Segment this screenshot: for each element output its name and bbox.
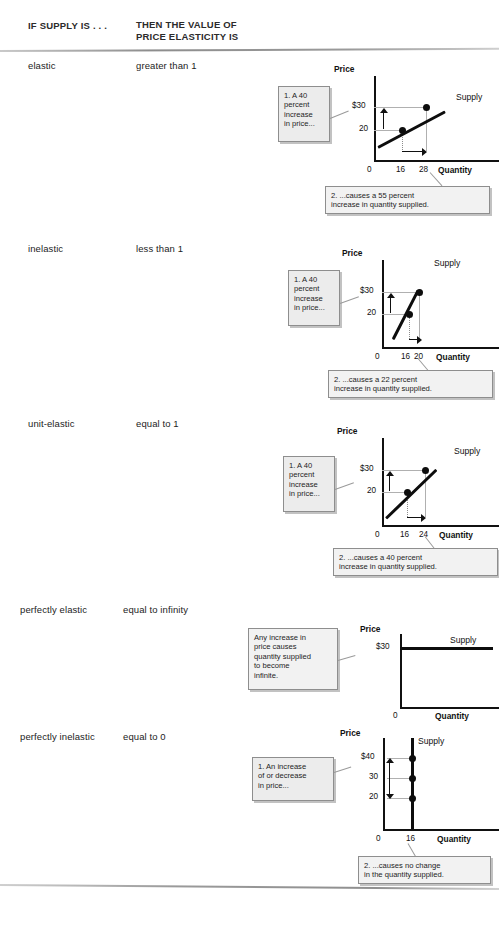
x-axis: [382, 347, 499, 349]
supply-point-20-30: [416, 289, 423, 296]
y-tick-30: 30: [369, 772, 378, 781]
quantity-axis-title: Quantity: [438, 165, 472, 175]
price-axis-title: Price: [337, 426, 358, 436]
y-tick-40: $40: [361, 752, 375, 761]
price-increase-arrow: [389, 475, 390, 491]
chart-elastic: Price $30 20 0 16 28 Quantity Supply: [330, 62, 499, 177]
chart-perfectly-elastic: Price $30 0 Quantity Supply: [340, 622, 499, 720]
supply-curve-label: Supply: [418, 736, 444, 746]
supply-curve-label: Supply: [456, 92, 482, 102]
callout-quantity-result-elastic: 2. ...causes a 55 percent increase in qu…: [325, 186, 490, 214]
y-axis: [383, 738, 385, 830]
quantity-increase-arrow: [409, 339, 417, 340]
header-column-elasticity: THEN THE VALUE OF PRICE ELASTICITY IS: [136, 19, 276, 43]
quantity-axis-title: Quantity: [435, 711, 469, 721]
callout-quantity-result-unit-elastic: 2. ...causes a 40 percent increase in qu…: [333, 548, 498, 576]
quantity-guide-16: [409, 314, 410, 339]
callout-price-increase-unit-elastic: 1. A 40 percent increase in price...: [283, 456, 335, 512]
supply-point-16-40: [409, 755, 416, 762]
y-tick-30: $30: [360, 464, 374, 473]
x-tick-0: 0: [375, 530, 380, 539]
supply-point-16-20: [409, 795, 416, 802]
x-tick-16: 16: [406, 834, 415, 843]
x-tick-28: 28: [419, 165, 428, 174]
x-axis: [382, 525, 499, 527]
chart-inelastic: Price $30 20 0 16 20 Quantity Supply: [340, 246, 499, 364]
header-elasticity-line2: PRICE ELASTICITY IS: [136, 31, 276, 43]
supply-point-16-20: [404, 489, 411, 496]
callout-perfectly-elastic: Any increase in price causes quantity su…: [248, 628, 338, 690]
price-axis-title: Price: [334, 64, 355, 74]
header-elasticity-line1: THEN THE VALUE OF: [136, 19, 276, 31]
supply-curve-label: Supply: [454, 446, 480, 456]
x-axis: [400, 707, 499, 709]
supply-point-28-30: [423, 104, 430, 111]
callout-price-increase-inelastic: 1. A 40 percent increase in price...: [288, 270, 340, 326]
supply-curve: [411, 738, 414, 829]
quantity-axis-title: Quantity: [439, 530, 473, 540]
x-tick-16: 16: [400, 530, 409, 539]
supply-point-16-30: [409, 775, 416, 782]
y-tick-30: $30: [352, 101, 366, 110]
row-label-inelastic: inelastic: [28, 243, 63, 254]
quantity-guide-20: [419, 292, 420, 339]
x-axis: [383, 829, 499, 831]
row-label-elastic: elastic: [28, 60, 56, 71]
x-tick-0: 0: [375, 352, 380, 361]
y-axis: [374, 76, 376, 161]
y-axis: [382, 260, 384, 348]
row-value-perfectly-inelastic: equal to 0: [123, 731, 166, 742]
x-tick-0: 0: [367, 165, 372, 174]
y-tick-30: $30: [360, 286, 374, 295]
supply-curve: [400, 647, 493, 650]
supply-point-16-20: [406, 311, 413, 318]
row-label-perfectly-inelastic: perfectly inelastic: [20, 731, 95, 742]
chart-unit-elastic: Price $30 20 0 16 24 Quantity Supply: [335, 424, 499, 542]
price-axis-title: Price: [340, 728, 361, 738]
y-tick-20: 20: [359, 124, 368, 133]
quantity-axis-title: Quantity: [436, 352, 470, 362]
quantity-guide-28: [426, 107, 427, 151]
row-value-perfectly-elastic: equal to infinity: [123, 604, 188, 615]
price-axis-title: Price: [342, 248, 363, 258]
y-tick-30: $30: [376, 642, 390, 651]
row-value-elastic: greater than 1: [136, 60, 197, 71]
footer-divider: [0, 884, 499, 890]
y-tick-20: 20: [367, 486, 376, 495]
y-axis: [400, 634, 402, 708]
row-label-perfectly-elastic: perfectly elastic: [20, 604, 87, 615]
supply-point-24-30: [422, 467, 429, 474]
row-value-unit-elastic: equal to 1: [136, 418, 179, 429]
callout-price-change-perfectly-inelastic: 1. An increase of or decrease in price..…: [252, 757, 334, 801]
price-increase-arrow: [383, 112, 384, 129]
supply-curve-label: Supply: [434, 258, 460, 268]
y-tick-20: 20: [369, 792, 378, 801]
supply-curve-label: Supply: [450, 635, 476, 645]
callout-price-increase-elastic: 1. A 40 percent increase in price...: [278, 86, 330, 142]
x-tick-16: 16: [401, 352, 410, 361]
quantity-axis-title: Quantity: [437, 834, 471, 844]
callout-quantity-result-perfectly-inelastic: 2. ...causes no change in the quantity s…: [358, 856, 491, 884]
supply-point-16-20: [399, 127, 406, 134]
price-change-arrow: [389, 762, 390, 795]
price-axis-title: Price: [360, 624, 381, 634]
x-tick-0: 0: [376, 834, 381, 843]
price-guide-20: [374, 130, 402, 131]
callout-quantity-result-inelastic: 2. ...causes a 22 percent increase in qu…: [328, 370, 493, 398]
figure-page: IF SUPPLY IS . . . THEN THE VALUE OF PRI…: [0, 0, 499, 925]
supply-curve: [385, 469, 437, 520]
row-value-inelastic: less than 1: [136, 243, 183, 254]
x-tick-16: 16: [396, 165, 405, 174]
y-tick-20: 20: [367, 308, 376, 317]
row-label-unit-elastic: unit-elastic: [28, 418, 75, 429]
header-column-supply: IF SUPPLY IS . . .: [28, 20, 107, 31]
chart-perfectly-inelastic: Price $40 30 20 0 16 Quantity Supply: [340, 726, 499, 851]
quantity-increase-arrow: [407, 517, 421, 518]
x-axis: [374, 160, 499, 162]
x-tick-0: 0: [393, 711, 398, 720]
price-increase-arrow: [390, 297, 391, 313]
header-divider: [0, 48, 499, 52]
quantity-increase-arrow: [402, 151, 422, 152]
y-axis: [382, 438, 384, 526]
